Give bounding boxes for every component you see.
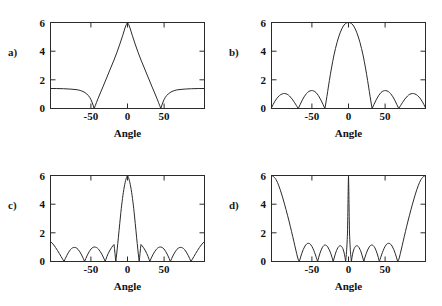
plot-b-yticks: [272, 23, 426, 109]
plot-a-yticks: [51, 23, 205, 109]
ytick-label-6: 6: [261, 17, 267, 29]
ytick-label-4: 4: [40, 198, 46, 210]
plot-b-curve: [272, 23, 426, 109]
plot-a-xticks: [91, 23, 164, 109]
plot-c-xticks: [91, 176, 164, 262]
ytick-label-2: 2: [40, 74, 46, 86]
xtick-label-50: 50: [380, 110, 392, 122]
plot-c-frame: [51, 176, 205, 262]
xtick-label-0: 0: [125, 263, 131, 275]
plot-panel-d: d) 0 2: [221, 153, 442, 306]
plot-a-ytick-labels: 0 2 4 6: [40, 17, 46, 115]
ytick-label-6: 6: [40, 17, 46, 29]
xaxis-title-d: Angle: [271, 280, 426, 292]
xtick-label-0: 0: [125, 110, 131, 122]
plot-d-curve: [272, 176, 426, 262]
ytick-label-4: 4: [40, 45, 46, 57]
xtick-label-neg50: -50: [84, 110, 99, 122]
xaxis-title-b: Angle: [271, 127, 426, 139]
plot-d-xtick-labels: -50 0 50: [305, 263, 392, 275]
xtick-label-50: 50: [159, 110, 171, 122]
xtick-label-50: 50: [380, 263, 392, 275]
plot-c-xtick-labels: -50 0 50: [84, 263, 171, 275]
ytick-label-4: 4: [261, 198, 267, 210]
xtick-label-neg50: -50: [305, 263, 320, 275]
ytick-label-0: 0: [40, 102, 46, 114]
plot-b-ytick-labels: 0 2 4 6: [261, 17, 267, 115]
ytick-label-2: 2: [261, 227, 267, 239]
plot-b-frame: [272, 23, 426, 109]
ytick-label-2: 2: [40, 227, 46, 239]
xaxis-title-a: Angle: [50, 127, 205, 139]
plot-b-xticks: [312, 23, 385, 109]
plot-d-ytick-labels: 0 2 4 6: [261, 170, 267, 268]
ytick-label-6: 6: [40, 170, 46, 182]
plot-panel-c: c) 0 2: [0, 153, 221, 306]
plot-panel-a: a) 0 2: [0, 0, 221, 153]
ytick-label-0: 0: [40, 255, 46, 267]
plot-panel-b: b) 0 2: [221, 0, 442, 153]
plot-c-curve: [51, 176, 205, 262]
plot-a-curve: [51, 23, 205, 109]
plot-b-xtick-labels: -50 0 50: [305, 110, 392, 122]
ytick-label-0: 0: [261, 255, 267, 267]
xtick-label-neg50: -50: [84, 263, 99, 275]
xtick-label-0: 0: [346, 110, 352, 122]
xtick-label-50: 50: [159, 263, 171, 275]
ytick-label-0: 0: [261, 102, 267, 114]
xaxis-title-c: Angle: [50, 280, 205, 292]
ytick-label-2: 2: [261, 74, 267, 86]
plot-a-xtick-labels: -50 0 50: [84, 110, 171, 122]
ytick-label-4: 4: [261, 45, 267, 57]
xtick-label-neg50: -50: [305, 110, 320, 122]
plot-a-frame: [51, 23, 205, 109]
ytick-label-6: 6: [261, 170, 267, 182]
plot-c-ytick-labels: 0 2 4 6: [40, 170, 46, 268]
plot-c-yticks: [51, 176, 205, 262]
xtick-label-0: 0: [346, 263, 352, 275]
beam-pattern-figure: a) 0 2: [0, 0, 442, 306]
